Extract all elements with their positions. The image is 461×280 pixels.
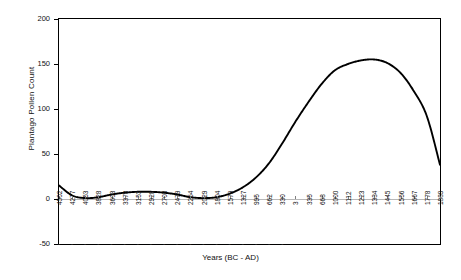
bc-era-dash: - xyxy=(255,241,257,247)
x-axis-tick-label: 3 xyxy=(292,201,299,205)
x-axis-tick-label: 1000 xyxy=(332,191,339,205)
x-axis-tick-label: 1804 xyxy=(213,191,220,205)
x-axis-tick-label: 668 xyxy=(319,194,326,205)
y-axis-tick-label: -50 xyxy=(39,239,50,248)
x-axis-tick-label: 1223 xyxy=(358,191,365,205)
x-axis-tick-label: 995 xyxy=(253,194,260,205)
y-axis-tick-label: 50 xyxy=(42,149,50,158)
x-axis-tick-label: 1667 xyxy=(411,191,418,205)
x-axis-tick-label: 1889 xyxy=(437,191,444,205)
bc-era-dash: - xyxy=(189,241,191,247)
x-axis-tick-label: 1445 xyxy=(384,191,391,205)
x-axis-tick-label: 1556 xyxy=(397,191,404,205)
y-axis-tick-mark xyxy=(54,19,58,20)
x-axis-tick-label: 2254 xyxy=(187,191,194,205)
x-axis-tick-label: 1112 xyxy=(345,192,352,206)
bc-era-dash: - xyxy=(202,241,204,247)
bc-era-dash: - xyxy=(242,241,244,247)
x-axis-tick-label: 2479 xyxy=(174,191,181,205)
x-axis-tick-label: 4502 xyxy=(56,191,63,205)
y-axis-tick-label: 150 xyxy=(37,59,50,68)
bc-era-dash: - xyxy=(137,241,139,247)
y-axis-title: Plantago Pollen Count xyxy=(27,29,36,189)
y-axis-tick-label: 200 xyxy=(37,14,50,23)
bc-era-dash: - xyxy=(71,241,73,247)
bc-era-dash: - xyxy=(215,241,217,247)
x-axis-tick-label: 2703 xyxy=(161,191,168,205)
x-axis-tick-label: 4277 xyxy=(69,191,76,205)
bc-era-dash: - xyxy=(58,241,60,247)
bc-era-dash: - xyxy=(97,241,99,247)
y-axis-tick-mark xyxy=(54,109,58,110)
bc-era-dash: - xyxy=(268,241,270,247)
x-axis-tick-label: 4053 xyxy=(82,191,89,205)
x-axis-title: Years (BC - AD) xyxy=(0,253,461,262)
bc-era-dash: - xyxy=(110,241,112,247)
bc-era-dash: - xyxy=(229,241,231,247)
bc-era-dash: - xyxy=(281,241,283,247)
x-axis-tick-label: 3603 xyxy=(108,191,115,205)
x-axis-tick-label: 2029 xyxy=(200,191,207,205)
x-axis-tick-label: 3378 xyxy=(121,191,128,205)
x-axis-tick-label: 1334 xyxy=(371,191,378,205)
y-axis-tick-label: 0 xyxy=(46,194,50,203)
x-axis-tick-label: 3828 xyxy=(95,191,102,205)
bc-era-dash: - xyxy=(84,241,86,247)
x-axis-tick-label: 2928 xyxy=(148,191,155,205)
bc-era-dash: - xyxy=(124,241,126,247)
y-axis-tick-label: 100 xyxy=(37,104,50,113)
x-axis-tick-label: 3153 xyxy=(135,191,142,205)
x-axis-tick-label: 1579 xyxy=(227,191,234,205)
y-axis-tick-mark xyxy=(54,154,58,155)
x-axis-tick-mark xyxy=(295,196,296,199)
bc-era-dash: - xyxy=(150,241,152,247)
x-axis-tick-label: 1327 xyxy=(240,191,247,205)
x-axis-tick-label: 662 xyxy=(266,194,273,205)
x-axis-tick-label: 1778 xyxy=(424,191,431,205)
plot-area xyxy=(58,18,441,245)
y-axis-tick-mark xyxy=(54,64,58,65)
bc-era-dash: - xyxy=(176,241,178,247)
x-axis-tick-label: 335 xyxy=(305,194,312,205)
bc-era-dash: - xyxy=(163,241,165,247)
pollen-count-line xyxy=(59,19,440,244)
x-axis-tick-label: 330 xyxy=(279,194,286,205)
chart-figure: Plantago Pollen Count 200150100500-50 45… xyxy=(0,0,461,280)
